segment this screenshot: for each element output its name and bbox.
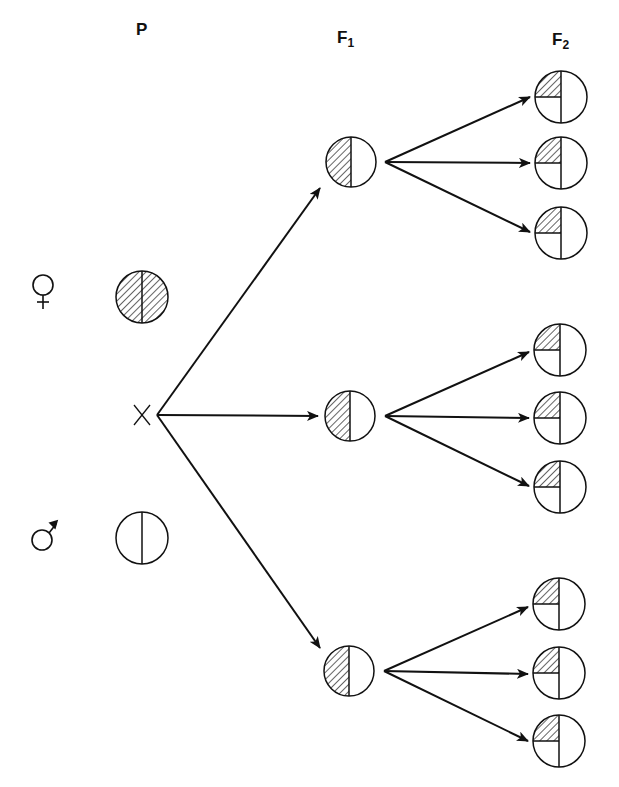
f2-circle bbox=[533, 578, 585, 630]
genetics-cross-diagram bbox=[0, 0, 619, 787]
f1-circle bbox=[324, 646, 374, 696]
p-to-f1-arrows bbox=[157, 188, 320, 648]
f2-circle bbox=[535, 137, 587, 189]
f2-circle bbox=[533, 715, 585, 767]
f2-circles bbox=[533, 71, 587, 767]
f2-circle bbox=[535, 71, 587, 123]
f1-circle bbox=[326, 137, 376, 187]
f2-circle bbox=[534, 324, 586, 376]
cross-symbol-icon bbox=[134, 405, 150, 425]
f1-to-f2-arrows bbox=[384, 97, 530, 741]
f2-circle bbox=[533, 647, 585, 699]
parent-male-circle bbox=[116, 512, 168, 564]
f2-circle bbox=[535, 207, 587, 259]
parent-female-circle bbox=[116, 271, 168, 323]
f2-circle bbox=[534, 392, 586, 444]
f2-circle bbox=[534, 461, 586, 513]
f1-circle bbox=[325, 391, 375, 441]
female-symbol-icon bbox=[33, 275, 53, 309]
male-symbol-icon bbox=[32, 521, 57, 550]
